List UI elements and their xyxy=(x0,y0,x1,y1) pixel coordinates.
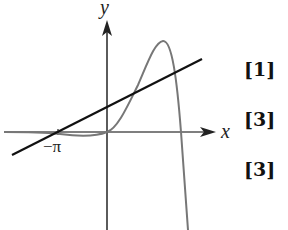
graph: y x −π xyxy=(0,0,235,230)
marks-column: [1] [3] [3] xyxy=(244,0,288,230)
x-axis-label: x xyxy=(220,120,230,142)
curve xyxy=(4,41,188,230)
tick-label-minus-pi: −π xyxy=(43,137,62,156)
mark-2: [3] xyxy=(244,108,275,130)
mark-1: [1] xyxy=(244,58,275,80)
mark-3: [3] xyxy=(244,158,275,180)
y-axis-label: y xyxy=(98,0,109,19)
